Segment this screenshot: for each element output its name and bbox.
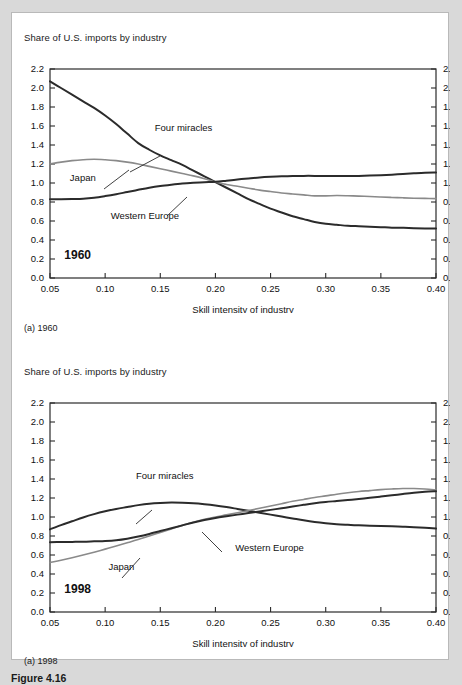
chart-1960-xaxis-label: Skill intensity of industry [192, 304, 294, 313]
chart-1960-series-four-miracles [50, 81, 436, 228]
chart-1998-ytick-label-right: 0.6 [443, 549, 450, 560]
chart-1998-ytick-label-right: 2.0 [443, 416, 450, 427]
chart-1960-ytick-label-left: 0.6 [31, 215, 44, 226]
chart-1998-ytick-label-left: 0.0 [31, 606, 44, 617]
chart-1960-ytick-label-right: 2.0 [443, 82, 450, 93]
figure-number-label: Figure 4.16 [11, 672, 66, 684]
chart-1960-ytick-label-left: 1.0 [31, 177, 44, 188]
chart-1960-ytick-label-left: 1.2 [31, 158, 44, 169]
chart-1998-xtick-label: 0.25 [261, 617, 280, 628]
chart-1998-ytick-label-right: 0.4 [443, 568, 450, 579]
chart-1998-ytick-label-left: 0.6 [31, 549, 44, 560]
chart-1960-ytick-label-left: 0.4 [31, 234, 44, 245]
chart-1998-ytick-label-right: 1.6 [443, 454, 450, 465]
chart-1998-ytick-label-right: 1.0 [443, 511, 450, 522]
chart-1998-ytick-label-right: 0.2 [443, 587, 450, 598]
chart-1998-ytick-label-left: 0.2 [31, 587, 44, 598]
chart-1960-ytick-label-left: 2.2 [31, 63, 44, 74]
chart-1960-ytick-label-right: 0.4 [443, 234, 450, 245]
panel-1998-title: Share of U.S. imports by industry [24, 366, 167, 377]
chart-1998-xtick-label: 0.30 [316, 617, 335, 628]
panel-1998-caption: (a) 1998 [24, 656, 58, 666]
chart-1998-series-western-europe [50, 491, 436, 542]
chart-1998-ytick-label-right: 2.2 [443, 397, 450, 408]
chart-1998-axis-frame [50, 403, 436, 612]
panel-1960-caption: (a) 1960 [24, 323, 58, 333]
chart-1998-ytick-label-left: 1.2 [31, 492, 44, 503]
chart-1998-xtick-label: 0.20 [206, 617, 225, 628]
chart-1960-ytick-label-left: 0.8 [31, 196, 44, 207]
chart-1998-xaxis-label: Skill intensity of industry [192, 638, 294, 647]
chart-1998-xtick-label: 0.40 [427, 617, 446, 628]
chart-1960-ytick-label-left: 0.2 [31, 253, 44, 264]
chart-1998-plot: 0.00.00.20.20.40.40.60.60.80.81.01.01.21… [12, 382, 450, 647]
chart-1960-xtick-label: 0.05 [41, 283, 60, 294]
chart-1998-xtick-label: 0.05 [41, 617, 60, 628]
chart-1998-series-four-miracles [50, 503, 436, 530]
chart-1960-ytick-label-right: 1.2 [443, 158, 450, 169]
chart-1960-ytick-label-left: 1.6 [31, 120, 44, 131]
chart-1960-axis-frame [50, 69, 436, 278]
chart-1960-series-label-japan: Japan [70, 172, 96, 183]
chart-1960-ytick-label-left: 1.8 [31, 101, 44, 112]
chart-1960-series-label-western-europe: Western Europe [111, 210, 179, 221]
chart-1998-series-label-japan: Japan [108, 561, 134, 572]
chart-1998-xtick-label: 0.15 [151, 617, 170, 628]
page-root: Share of U.S. imports by industry 0.00.0… [0, 0, 462, 685]
chart-1998-ytick-label-right: 0.0 [443, 606, 450, 617]
chart-1998-svg: 0.00.00.20.20.40.40.60.60.80.81.01.01.21… [12, 382, 450, 647]
chart-1960-xtick-label: 0.30 [316, 283, 335, 294]
chart-1960-canvas: 0.00.00.20.20.40.40.60.60.80.81.01.01.21… [31, 63, 450, 313]
chart-1960-xtick-label: 0.40 [427, 283, 446, 294]
chart-1998-ytick-label-left: 1.0 [31, 511, 44, 522]
chart-1998-ytick-label-left: 0.4 [31, 568, 44, 579]
chart-1960-ytick-label-left: 2.0 [31, 82, 44, 93]
chart-1998-ytick-label-left: 2.0 [31, 416, 44, 427]
chart-1998-ytick-label-left: 0.8 [31, 530, 44, 541]
chart-1960-series-label-four-miracles: Four miracles [155, 122, 213, 133]
chart-1960-ytick-label-right: 1.6 [443, 120, 450, 131]
chart-1998-ytick-label-left: 1.4 [31, 473, 44, 484]
chart-1960-ytick-label-left: 0.0 [31, 272, 44, 283]
figure-container: Share of U.S. imports by industry 0.00.0… [11, 12, 449, 660]
chart-1998-xtick-label: 0.10 [96, 617, 115, 628]
chart-1960-plot: 0.00.00.20.20.40.40.60.60.80.81.01.01.21… [12, 48, 450, 313]
chart-1960-ytick-label-left: 1.4 [31, 139, 44, 150]
chart-1960-xtick-label: 0.15 [151, 283, 170, 294]
chart-1998-canvas: 0.00.00.20.20.40.40.60.60.80.81.01.01.21… [31, 397, 450, 647]
chart-1960-svg: 0.00.00.20.20.40.40.60.60.80.81.01.01.21… [12, 48, 450, 313]
chart-1960-ytick-label-right: 0.6 [443, 215, 450, 226]
chart-1998-ytick-label-right: 1.2 [443, 492, 450, 503]
chart-1998-ytick-label-left: 1.6 [31, 454, 44, 465]
chart-1960-ytick-label-right: 0.2 [443, 253, 450, 264]
panel-1998: Share of U.S. imports by industry 0.00.0… [12, 348, 450, 661]
chart-1998-ytick-label-right: 1.8 [443, 435, 450, 446]
chart-1998-year-annotation: 1998 [64, 582, 91, 596]
panel-1960: Share of U.S. imports by industry 0.00.0… [12, 13, 450, 343]
chart-1960-leader-line [104, 170, 129, 189]
chart-1960-ytick-label-right: 2.2 [443, 63, 450, 74]
chart-1998-series-label-western-europe: Western Europe [235, 542, 303, 553]
panel-1960-title: Share of U.S. imports by industry [24, 32, 167, 43]
chart-1998-ytick-label-right: 0.8 [443, 530, 450, 541]
chart-1998-series-label-four-miracles: Four miracles [136, 470, 194, 481]
chart-1960-xtick-label: 0.25 [261, 283, 280, 294]
chart-1960-year-annotation: 1960 [64, 248, 91, 262]
chart-1960-ytick-label-right: 0.8 [443, 196, 450, 207]
chart-1960-ytick-label-right: 0.0 [443, 272, 450, 283]
chart-1998-leader-line [136, 510, 152, 524]
chart-1998-xtick-label: 0.35 [372, 617, 391, 628]
chart-1960-ytick-label-right: 1.0 [443, 177, 450, 188]
chart-1998-ytick-label-left: 2.2 [31, 397, 44, 408]
chart-1998-ytick-label-left: 1.8 [31, 435, 44, 446]
chart-1998-leader-line [202, 532, 222, 552]
chart-1960-ytick-label-right: 1.4 [443, 139, 450, 150]
chart-1998-ytick-label-right: 1.4 [443, 473, 450, 484]
chart-1960-xtick-label: 0.20 [206, 283, 225, 294]
chart-1960-xtick-label: 0.35 [372, 283, 391, 294]
chart-1960-ytick-label-right: 1.8 [443, 101, 450, 112]
chart-1960-xtick-label: 0.10 [96, 283, 115, 294]
